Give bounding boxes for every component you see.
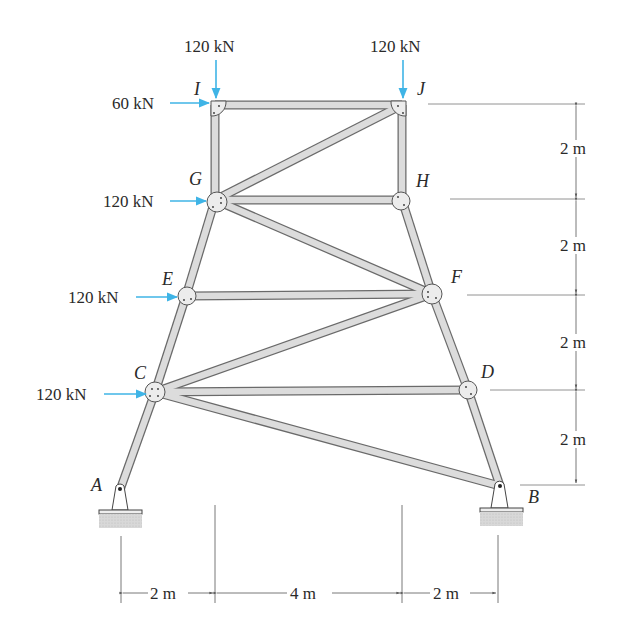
vertical-dimension-extensions: [428, 104, 585, 485]
joint-label-E: E: [162, 270, 173, 288]
dim-label-v2: 2 m: [560, 237, 586, 254]
load-label-J-down: 120 kN: [370, 38, 421, 55]
joint-label-G: G: [189, 170, 202, 188]
gusset-D: [459, 381, 477, 399]
joint-label-D: D: [481, 363, 494, 381]
gusset-E: [178, 287, 196, 305]
gusset-H: [392, 192, 410, 210]
truss-diagram: [0, 0, 634, 635]
load-label-C-right: 120 kN: [36, 386, 87, 403]
pin-support-B: [480, 481, 523, 526]
dim-label-v3: 2 m: [560, 334, 586, 351]
joint-label-F: F: [451, 268, 462, 286]
load-label-E-right: 120 kN: [68, 289, 119, 306]
gusset-G: [207, 192, 227, 212]
gusset-C: [145, 382, 165, 402]
load-label-G-right: 120 kN: [103, 193, 154, 210]
load-label-I-right: 60 kN: [112, 95, 154, 112]
joint-label-B: B: [528, 488, 539, 506]
pin-support-A: [99, 484, 142, 528]
gusset-F: [422, 284, 442, 304]
dim-label-v4: 2 m: [560, 431, 586, 448]
joint-label-H: H: [416, 172, 429, 190]
load-label-I-down: 120 kN: [184, 38, 235, 55]
dim-label-h3: 2 m: [433, 585, 459, 602]
dim-label-h1: 2 m: [150, 585, 176, 602]
gusset-I: [211, 101, 226, 116]
joint-label-C: C: [134, 364, 146, 382]
dim-label-h2: 4 m: [290, 585, 316, 602]
joint-label-A: A: [91, 476, 102, 494]
dim-label-v1: 2 m: [560, 140, 586, 157]
joint-label-J: J: [417, 80, 425, 98]
joint-label-I: I: [194, 80, 200, 98]
